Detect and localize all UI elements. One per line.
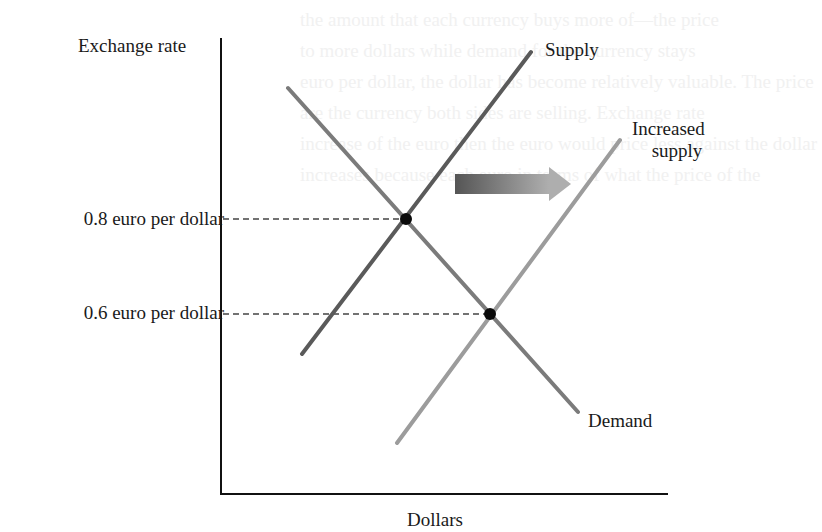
y-tick-label-0-6: 0.6 euro per dollar — [84, 302, 224, 324]
equilibrium-point-new — [484, 308, 496, 320]
increased-supply-label-line1: Increased — [632, 118, 722, 140]
y-tick-label-0-8: 0.8 euro per dollar — [84, 208, 224, 230]
y-axis-title: Exchange rate — [78, 35, 186, 57]
x-axis-title: Dollars — [407, 509, 463, 531]
demand-label: Demand — [588, 410, 652, 432]
demand-curve — [288, 88, 578, 412]
increased-supply-label-line2: supply — [632, 140, 722, 162]
increased-supply-label: Increased supply — [632, 118, 722, 162]
supply-label: Supply — [545, 39, 599, 61]
shift-arrow-icon — [455, 167, 571, 201]
equilibrium-point-initial — [400, 213, 412, 225]
